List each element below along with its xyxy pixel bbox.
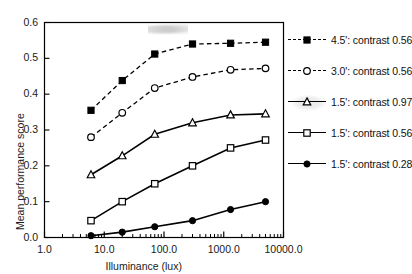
y-tick-label: 0.4 xyxy=(0,87,38,99)
x-axis-ticks xyxy=(45,232,284,238)
legend-key-open-triangle-icon xyxy=(288,96,326,108)
legend-label: 3.0': contrast 0.56 xyxy=(326,65,412,77)
legend-label: 1.5': contrast 0.28 xyxy=(326,158,412,170)
filled-square-icon xyxy=(300,33,314,47)
chart-legend: 4.5': contrast 0.563.0': contrast 0.561.… xyxy=(288,24,410,179)
legend-key-filled-circle-icon xyxy=(288,158,326,170)
series-1 xyxy=(88,65,269,140)
legend-key-open-square-icon xyxy=(288,127,326,139)
filled-circle-icon xyxy=(300,157,314,171)
open-square-icon xyxy=(300,126,314,140)
y-axis-title: Mean performance score xyxy=(14,113,26,230)
y-tick-label: 0.5 xyxy=(0,51,38,63)
legend-label: 4.5': contrast 0.56 xyxy=(326,34,412,46)
x-tick-label: 1.0 xyxy=(15,243,75,255)
x-tick-label: 100.0 xyxy=(134,243,194,255)
legend-item: 4.5': contrast 0.56 xyxy=(288,24,410,55)
series-2 xyxy=(87,110,269,178)
series-3 xyxy=(88,137,269,224)
legend-item: 1.5': contrast 0.28 xyxy=(288,148,410,179)
open-circle-icon xyxy=(300,64,314,78)
data-series-layer xyxy=(87,39,269,239)
series-4 xyxy=(88,199,269,239)
y-axis-ticks xyxy=(45,23,50,238)
x-axis-title: Illuminance (lux) xyxy=(0,260,288,272)
legend-label: 1.5': contrast 0.97 xyxy=(326,96,412,108)
legend-item: 1.5': contrast 0.97 xyxy=(288,86,410,117)
legend-label: 1.5': contrast 0.56 xyxy=(326,127,412,139)
legend-key-filled-square-icon xyxy=(288,34,326,46)
open-triangle-icon xyxy=(300,95,314,109)
x-tick-label: 1000.0 xyxy=(194,243,254,255)
legend-key-open-circle-icon xyxy=(288,65,326,77)
x-tick-label: 10000.0 xyxy=(254,243,314,255)
legend-item: 3.0': contrast 0.56 xyxy=(288,55,410,86)
y-tick-label: 0.6 xyxy=(0,16,38,28)
series-0 xyxy=(88,39,269,113)
y-tick-label: 0.0 xyxy=(0,231,38,243)
x-tick-label: 10.0 xyxy=(74,243,134,255)
legend-item: 1.5': contrast 0.56 xyxy=(288,117,410,148)
